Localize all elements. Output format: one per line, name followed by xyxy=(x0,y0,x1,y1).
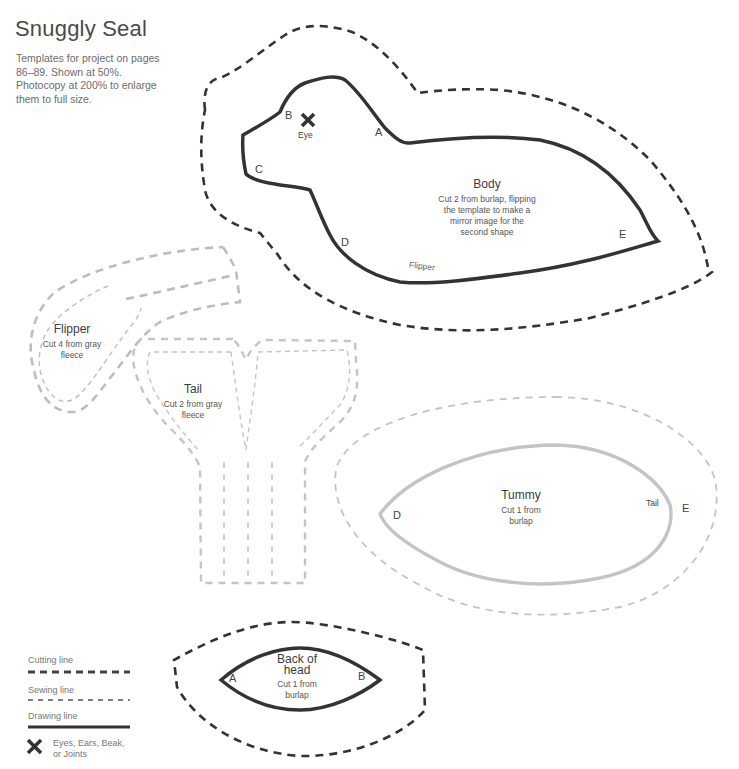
body-label: Body Cut 2 from burlap, flipping the tem… xyxy=(412,177,562,238)
tail-stem-lines xyxy=(224,462,272,583)
body-mark-e: E xyxy=(619,228,626,240)
legend-cutting-line-label: Cutting line xyxy=(28,655,73,665)
back-of-head-name: Back of head xyxy=(272,654,322,676)
back-of-head-label: Back of head Cut 1 from burlap xyxy=(262,654,332,701)
flipper-inner-cutting-line xyxy=(126,276,230,299)
eye-x-mark-icon xyxy=(302,114,314,126)
legend-x-mark-label: Eyes, Ears, Beak, or Joints xyxy=(53,738,128,760)
tail-name: Tail xyxy=(153,382,233,396)
tail-label: Tail Cut 2 from gray fleece xyxy=(153,382,233,421)
templates-canvas xyxy=(0,0,739,769)
body-instructions: Cut 2 from burlap, flipping the template… xyxy=(437,194,537,238)
tail-instructions: Cut 2 from gray fleece xyxy=(163,399,223,421)
back-of-head-mark-b: B xyxy=(358,670,365,682)
back-of-head-instructions: Cut 1 from burlap xyxy=(272,679,322,701)
tummy-mark-d: D xyxy=(393,509,401,521)
tummy-tail-note: Tail xyxy=(646,498,659,508)
flipper-instructions: Cut 4 from gray fleece xyxy=(42,339,102,361)
flipper-name: Flipper xyxy=(32,322,112,336)
body-name: Body xyxy=(412,177,562,191)
eye-label: Eye xyxy=(298,130,313,140)
body-mark-b: B xyxy=(285,109,292,121)
tail-cutting-line xyxy=(133,339,357,583)
back-of-head-mark-a: A xyxy=(229,672,236,684)
body-mark-c: C xyxy=(255,163,263,175)
tummy-instructions: Cut 1 from burlap xyxy=(496,505,546,527)
body-mark-d: D xyxy=(341,236,349,248)
tummy-mark-e: E xyxy=(682,502,689,514)
legend-drawing-line-label: Drawing line xyxy=(28,711,78,721)
legend-sewing-line-label: Sewing line xyxy=(28,685,74,695)
tummy-label: Tummy Cut 1 from burlap xyxy=(486,488,556,527)
body-mark-a: A xyxy=(375,126,382,138)
legend-x-mark-icon xyxy=(28,740,41,753)
flipper-label: Flipper Cut 4 from gray fleece xyxy=(32,322,112,361)
tummy-name: Tummy xyxy=(486,488,556,502)
